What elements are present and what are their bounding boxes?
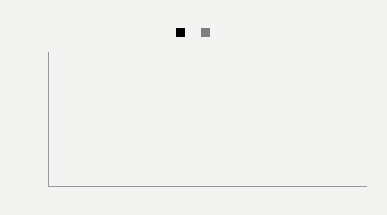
x-axis <box>48 186 367 187</box>
y-axis <box>48 52 49 186</box>
legend <box>0 28 387 37</box>
legend-swatch-female <box>201 28 210 37</box>
legend-item-female <box>201 28 212 37</box>
legend-swatch-male <box>176 28 185 37</box>
legend-item-male <box>176 28 187 37</box>
